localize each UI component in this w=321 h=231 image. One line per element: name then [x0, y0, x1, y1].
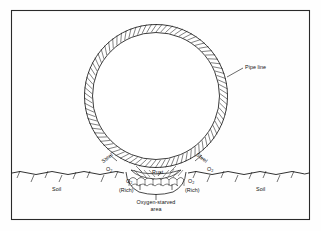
pipe-inner-circle	[93, 33, 220, 160]
o2-lower-right-subscript: 2	[192, 181, 194, 185]
label-rich-left: (Rich)	[119, 187, 134, 193]
label-o2-lower-left: O2	[126, 178, 132, 185]
label-rust: Rust	[152, 169, 163, 175]
label-o2-upper-right: O2	[207, 166, 213, 173]
pipeline-corrosion-diagram	[0, 0, 321, 231]
label-oxygen-starved-line1: Oxygen-starved	[126, 199, 186, 205]
o2-upper-left-subscript: 2	[110, 169, 112, 173]
leader-pipe-line	[227, 68, 243, 77]
o2-lower-left-subscript: 2	[130, 181, 132, 185]
o2-upper-right-subscript: 2	[211, 169, 213, 173]
label-o2-upper-left: O2	[106, 166, 112, 173]
label-o2-lower-right: O2	[188, 178, 194, 185]
label-pipe-line: Pipe line	[245, 64, 266, 70]
pipe-wall	[84, 24, 228, 168]
label-rich-right: (Rich)	[185, 187, 200, 193]
figure-container: Pipe line Steel Steel Soil Soil Rust O2 …	[0, 0, 321, 231]
label-soil-right: Soil	[256, 186, 265, 192]
label-soil-left: Soil	[52, 186, 61, 192]
label-oxygen-starved-line2: area	[126, 206, 186, 212]
